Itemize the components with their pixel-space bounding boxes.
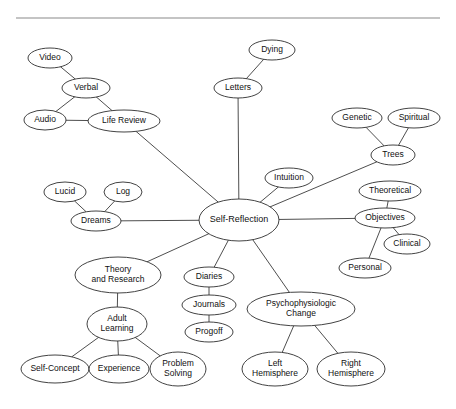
node-clinical[interactable]: Clinical xyxy=(384,234,430,254)
concept-map-canvas: VideoVerbalAudioLife ReviewDyingLettersG… xyxy=(0,0,456,409)
node-label-journals: Journals xyxy=(193,299,225,309)
node-label-clinical: Clinical xyxy=(393,238,421,248)
edge-adult-learning-to-problem-solving xyxy=(135,337,160,355)
node-progoff[interactable]: Progoff xyxy=(185,322,233,342)
edge-letters-to-self-reflection xyxy=(238,98,239,199)
edge-lucid-to-dreams xyxy=(75,201,87,212)
node-journals[interactable]: Journals xyxy=(182,295,236,315)
node-log[interactable]: Log xyxy=(104,182,142,202)
node-left-hemisphere[interactable]: LeftHemisphere xyxy=(242,352,308,386)
edge-theoretical-to-objectives xyxy=(387,201,388,208)
node-label-experience: Experience xyxy=(98,363,141,373)
edge-self-reflection-to-theory-research xyxy=(147,234,209,262)
node-spiritual[interactable]: Spiritual xyxy=(388,108,440,128)
edge-objectives-to-clinical xyxy=(393,228,399,235)
node-label-lucid: Lucid xyxy=(55,186,76,196)
node-life-review[interactable]: Life Review xyxy=(88,110,160,132)
node-label-letters: Letters xyxy=(225,82,251,92)
node-label-self-reflection: Self-Reflection xyxy=(210,214,269,224)
node-letters[interactable]: Letters xyxy=(214,78,262,98)
edge-video-to-verbal xyxy=(61,67,76,79)
concept-map-svg: VideoVerbalAudioLife ReviewDyingLettersG… xyxy=(0,0,456,409)
node-label-self-concept: Self-Concept xyxy=(30,363,80,373)
node-diaries[interactable]: Diaries xyxy=(184,267,234,287)
node-label-dying: Dying xyxy=(261,44,283,54)
node-label-diaries: Diaries xyxy=(196,271,222,281)
node-label-spiritual: Spiritual xyxy=(399,112,430,122)
node-video[interactable]: Video xyxy=(28,48,72,68)
node-label-theoretical: Theoretical xyxy=(369,185,411,195)
node-psychophysiologic-change[interactable]: PsychophysiologicChange xyxy=(247,292,355,326)
node-trees[interactable]: Trees xyxy=(371,145,415,165)
edge-adult-learning-to-self-concept xyxy=(72,337,99,356)
node-label-objectives: Objectives xyxy=(365,212,405,222)
node-self-reflection[interactable]: Self-Reflection xyxy=(199,199,279,241)
node-label-verbal: Verbal xyxy=(74,82,98,92)
node-theory-research[interactable]: Theoryand Research xyxy=(75,257,161,293)
edge-verbal-to-audio xyxy=(56,97,75,112)
node-right-hemisphere[interactable]: RightHemisphere xyxy=(317,352,385,386)
edge-adult-learning-to-experience xyxy=(118,341,119,355)
node-intuition[interactable]: Intuition xyxy=(265,168,313,188)
node-label-genetic: Genetic xyxy=(342,112,372,122)
edge-dying-to-letters xyxy=(246,59,263,78)
node-adult-learning[interactable]: AdultLearning xyxy=(87,307,147,341)
node-verbal[interactable]: Verbal xyxy=(62,78,110,98)
edge-objectives-to-personal xyxy=(369,228,381,258)
node-label-video: Video xyxy=(39,52,61,62)
edge-verbal-to-life-review xyxy=(96,97,112,111)
edge-life-review-to-self-reflection xyxy=(136,131,218,202)
node-label-life-review: Life Review xyxy=(102,115,147,125)
edge-self-reflection-to-diaries xyxy=(214,240,228,267)
node-label-audio: Audio xyxy=(34,114,56,124)
node-label-problem-solving: ProblemSolving xyxy=(162,358,194,378)
node-layer: VideoVerbalAudioLife ReviewDyingLettersG… xyxy=(21,40,440,386)
node-problem-solving[interactable]: ProblemSolving xyxy=(150,352,206,386)
node-genetic[interactable]: Genetic xyxy=(332,108,382,128)
node-label-personal: Personal xyxy=(348,262,382,272)
node-label-progoff: Progoff xyxy=(195,326,223,336)
node-experience[interactable]: Experience xyxy=(89,355,149,383)
edge-log-to-dreams xyxy=(105,201,115,212)
edge-intuition-to-self-reflection xyxy=(260,187,278,202)
node-dying[interactable]: Dying xyxy=(249,40,295,60)
edge-psychophysiologic-change-to-right-hemisphere xyxy=(315,325,338,353)
edge-psychophysiologic-change-to-left-hemisphere xyxy=(282,326,294,353)
node-personal[interactable]: Personal xyxy=(339,258,391,278)
edge-spiritual-to-trees xyxy=(399,128,409,146)
node-self-concept[interactable]: Self-Concept xyxy=(21,355,89,383)
edge-objectives-to-self-reflection xyxy=(279,218,355,219)
node-label-log: Log xyxy=(116,186,130,196)
edge-self-reflection-to-psychophysiologic-change xyxy=(253,240,290,293)
edge-genetic-to-trees xyxy=(366,127,384,146)
edge-dreams-to-self-reflection xyxy=(121,220,199,221)
node-lucid[interactable]: Lucid xyxy=(44,182,86,202)
node-label-dreams: Dreams xyxy=(81,215,111,225)
node-audio[interactable]: Audio xyxy=(24,110,66,130)
node-label-intuition: Intuition xyxy=(274,172,304,182)
node-label-trees: Trees xyxy=(382,149,403,159)
node-theoretical[interactable]: Theoretical xyxy=(359,181,421,201)
node-objectives[interactable]: Objectives xyxy=(355,208,415,228)
node-dreams[interactable]: Dreams xyxy=(71,211,121,231)
